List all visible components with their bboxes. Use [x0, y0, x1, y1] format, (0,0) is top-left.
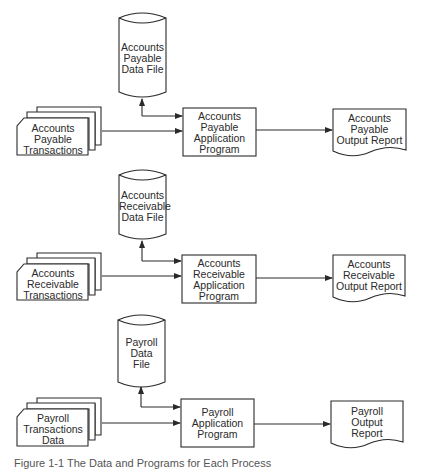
program-label: Payroll Application Program: [181, 407, 254, 440]
transactions-label: Accounts Receivable Transactions: [18, 268, 88, 301]
report-label: Accounts Receivable Output Report: [333, 259, 405, 292]
figure-caption: Figure 1-1 The Data and Programs for Eac…: [14, 457, 271, 469]
report-label: Payroll Output Report: [331, 406, 403, 439]
transactions-label: Accounts Payable Transactions: [18, 123, 88, 156]
data-file-label: Accounts Payable Data File: [119, 42, 166, 75]
transactions-label: Payroll Transactions Data: [18, 413, 88, 446]
report-label: Accounts Payable Output Report: [333, 113, 406, 146]
program-label: Accounts Receivable Application Program: [182, 258, 256, 302]
data-file-label: Accounts Receivable Data File: [119, 190, 166, 223]
program-label: Accounts Payable Application Program: [183, 111, 256, 155]
data-file-label: Payroll Data File: [118, 337, 165, 370]
